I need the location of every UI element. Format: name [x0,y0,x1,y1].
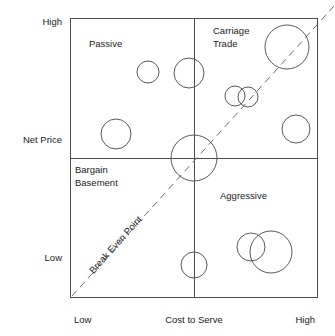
bubble-marker [265,25,309,69]
quadrant-label-bargain-basement-line1: Bargain [75,164,108,175]
matrix-chart-page: Passive Carriage Trade Bargain Basement … [0,0,335,336]
y-axis-title: Net Price [23,134,62,145]
quadrant-label-bargain-basement-line2: Basement [75,177,118,188]
x-axis-title: Cost to Serve [165,314,223,325]
x-axis-low-label: Low [74,314,92,325]
quadrant-label-passive: Passive [89,38,122,49]
bubble-marker [282,115,310,143]
bubble-marker [101,119,131,149]
net-price-cost-to-serve-matrix: Passive Carriage Trade Bargain Basement … [0,0,335,336]
quadrant-label-carriage-trade-line2: Trade [213,38,237,49]
y-axis-high-label: High [42,16,62,27]
bubble-marker [250,231,292,273]
break-even-label: Break Even Point [87,213,145,275]
bubble-marker [137,61,159,83]
quadrant-label-carriage-trade-line1: Carriage [213,25,249,36]
y-axis-low-label: Low [45,252,63,263]
bubble-marker [238,87,258,107]
x-axis-high-label: High [295,314,315,325]
quadrant-label-aggressive: Aggressive [220,190,267,201]
bubble-marker [174,58,204,88]
